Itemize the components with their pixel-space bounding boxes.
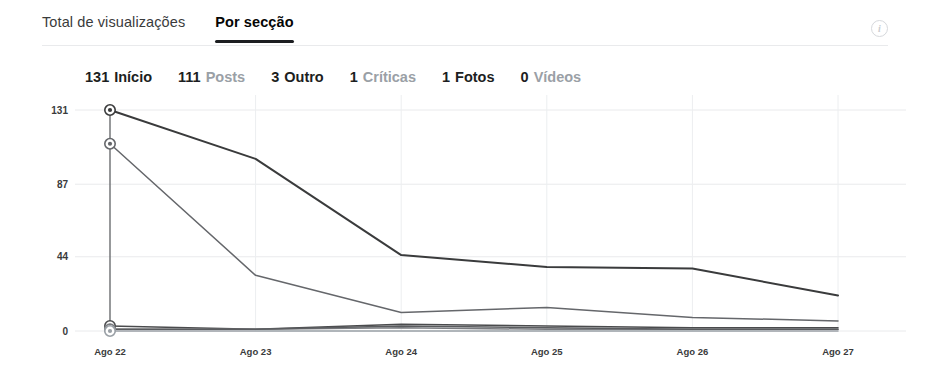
x-axis-tick-label: Ago 26 (677, 346, 709, 357)
chart-area: 04487131Ago 22Ago 23Ago 24Ago 25Ago 26Ag… (0, 95, 930, 391)
x-axis-tick-label: Ago 24 (385, 346, 417, 357)
legend-label: Críticas (363, 69, 416, 85)
legend-label: Outro (284, 69, 323, 85)
tab-label: Total de visualizações (42, 14, 185, 30)
tab-total-de-visualizacoes[interactable]: Total de visualizações (42, 13, 185, 43)
info-icon[interactable]: i (871, 20, 888, 37)
legend-label: Início (114, 69, 152, 85)
y-axis-tick-label: 44 (57, 251, 69, 262)
legend-item-outro[interactable]: 3Outro (271, 69, 324, 85)
legend-value: 1 (350, 69, 358, 85)
tab-list: Total de visualizações Por secção (42, 13, 324, 43)
legend-value: 1 (442, 69, 450, 85)
legend-value: 131 (85, 69, 109, 85)
section-views-line-chart: 04487131Ago 22Ago 23Ago 24Ago 25Ago 26Ag… (0, 95, 930, 391)
legend-label: Fotos (455, 69, 494, 85)
tab-divider (42, 45, 888, 46)
info-icon-glyph: i (878, 23, 881, 34)
legend-label: Vídeos (534, 69, 582, 85)
tab-bar: Total de visualizações Por secção i (0, 0, 930, 47)
insights-panel: Total de visualizações Por secção i 131I… (0, 0, 930, 391)
legend-item-posts[interactable]: 111Posts (178, 69, 245, 85)
data-point-marker[interactable] (105, 139, 115, 149)
series-line-posts (110, 144, 838, 321)
tab-label: Por secção (215, 14, 293, 30)
legend-item-in-cio[interactable]: 131Início (85, 69, 152, 85)
y-axis-tick-label: 131 (51, 105, 68, 116)
series-line-in-cio (110, 110, 838, 296)
data-point-marker[interactable] (105, 105, 115, 115)
legend-item-cr-ticas[interactable]: 1Críticas (350, 69, 416, 85)
legend-value: 0 (521, 69, 529, 85)
legend-value: 111 (178, 69, 201, 85)
x-axis-tick-label: Ago 23 (240, 346, 272, 357)
legend-value: 3 (271, 69, 279, 85)
legend-label: Posts (206, 69, 246, 85)
legend-item-fotos[interactable]: 1Fotos (442, 69, 495, 85)
y-axis-tick-label: 0 (62, 326, 68, 337)
x-axis-tick-label: Ago 22 (94, 346, 126, 357)
x-axis-tick-label: Ago 27 (822, 346, 854, 357)
y-axis-tick-label: 87 (57, 179, 69, 190)
x-axis-tick-label: Ago 25 (531, 346, 563, 357)
chart-legend: 131Início111Posts3Outro1Críticas1Fotos0V… (85, 69, 607, 85)
data-point-marker[interactable] (105, 326, 115, 336)
tab-por-seccao[interactable]: Por secção (215, 13, 293, 43)
legend-item-v-deos[interactable]: 0Vídeos (521, 69, 582, 85)
